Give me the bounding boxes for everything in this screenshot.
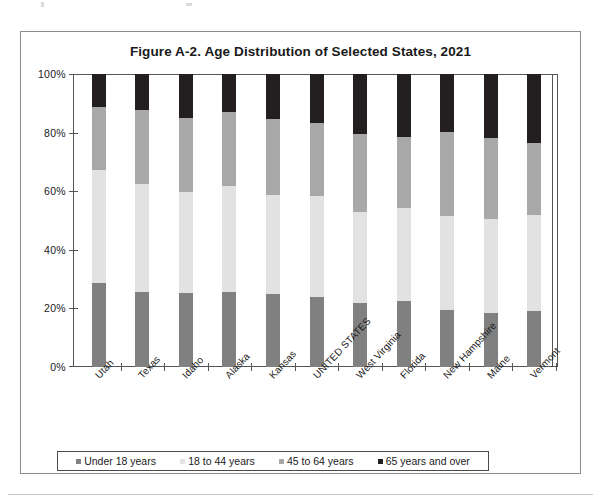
bar-segment: [527, 311, 541, 367]
bar-segment: [353, 134, 367, 212]
stacked-bar: [527, 74, 541, 367]
bar-segment: [222, 112, 236, 186]
stacked-bar: [135, 74, 149, 367]
bar-group: [92, 74, 106, 367]
legend-item: 45 to 64 years: [279, 455, 354, 467]
legend-swatch: [279, 459, 284, 464]
bar-group: [266, 74, 280, 367]
page-divider: [8, 494, 593, 495]
bar-segment: [310, 196, 324, 297]
bar-segment: [179, 192, 193, 293]
scan-artifact: [186, 3, 192, 6]
bar-segment: [310, 123, 324, 196]
bar-segment: [222, 292, 236, 367]
bar-segment: [222, 74, 236, 112]
y-tick-mark: [69, 308, 78, 309]
bar-segment: [135, 74, 149, 110]
bar-segment: [266, 119, 280, 194]
bar-segment: [179, 74, 193, 118]
bar-segment: [440, 216, 454, 311]
stacked-bar: [266, 74, 280, 367]
x-axis-labels: UtahTexasIdahoAlaskaKansasUNITED STATESW…: [73, 369, 573, 464]
bar-group: [222, 74, 236, 367]
bar-group: [440, 74, 454, 367]
bar-segment: [527, 74, 541, 143]
bar-segment: [440, 74, 454, 132]
y-tick-mark: [69, 250, 78, 251]
bar-segment: [484, 74, 498, 138]
legend-label: Under 18 years: [84, 455, 156, 467]
stacked-bar: [92, 74, 106, 367]
bar-segment: [92, 283, 106, 367]
chart-legend: Under 18 years18 to 44 years45 to 64 yea…: [57, 451, 489, 471]
bar-segment: [310, 297, 324, 367]
legend-label: 65 years and over: [386, 455, 470, 467]
bar-group: [397, 74, 411, 367]
legend-item: 65 years and over: [378, 455, 470, 467]
bar-segment: [92, 170, 106, 283]
bar-group: [179, 74, 193, 367]
y-tick-label: 100%: [38, 68, 66, 80]
bar-segment: [527, 143, 541, 215]
bar-segment: [179, 118, 193, 192]
bar-segment: [92, 74, 106, 107]
legend-item: Under 18 years: [76, 455, 156, 467]
y-tick-mark: [69, 366, 78, 367]
stacked-bar: [440, 74, 454, 367]
bar-segment: [353, 74, 367, 134]
bar-segment: [484, 219, 498, 313]
bar-segment: [440, 132, 454, 215]
figure-frame: Figure A-2. Age Distribution of Selected…: [20, 31, 581, 474]
stacked-bar: [179, 74, 193, 367]
y-tick-mark: [69, 133, 78, 134]
bar-group: [310, 74, 324, 367]
legend-item: 18 to 44 years: [180, 455, 255, 467]
bar-segment: [222, 186, 236, 292]
y-tick-label: 60%: [44, 185, 66, 197]
y-tick-label: 40%: [44, 244, 66, 256]
stacked-bar: [310, 74, 324, 367]
bar-segment: [179, 293, 193, 367]
bar-segment: [527, 215, 541, 311]
stacked-bar: [222, 74, 236, 367]
bar-segment: [266, 195, 280, 294]
bar-segment: [92, 107, 106, 170]
bar-segment: [440, 310, 454, 367]
stacked-bar: [397, 74, 411, 367]
bar-segment: [484, 138, 498, 219]
legend-label: 45 to 64 years: [287, 455, 354, 467]
bar-segment: [397, 208, 411, 301]
legend-label: 18 to 44 years: [188, 455, 255, 467]
bar-segment: [397, 74, 411, 137]
legend-swatch: [378, 459, 383, 464]
chart-title: Figure A-2. Age Distribution of Selected…: [21, 44, 580, 59]
legend-swatch: [180, 459, 185, 464]
bar-segment: [135, 184, 149, 292]
bar-group: [527, 74, 541, 367]
bar-segment: [353, 212, 367, 303]
y-tick-label: 20%: [44, 302, 66, 314]
y-tick-label: 80%: [44, 127, 66, 139]
bar-segment: [310, 74, 324, 123]
bar-segment: [266, 294, 280, 367]
bar-group: [135, 74, 149, 367]
y-tick-mark: [69, 191, 78, 192]
bar-segment: [135, 110, 149, 184]
bar-segment: [266, 74, 280, 119]
y-tick-label: 0%: [50, 361, 66, 373]
bar-segment: [397, 137, 411, 207]
y-tick-mark: [69, 74, 78, 75]
bar-segment: [135, 292, 149, 367]
bars-layer: [73, 74, 558, 367]
plot-wrapper: 0%20%40%60%80%100%: [73, 74, 558, 367]
legend-swatch: [76, 459, 81, 464]
scan-artifact: [41, 2, 44, 7]
